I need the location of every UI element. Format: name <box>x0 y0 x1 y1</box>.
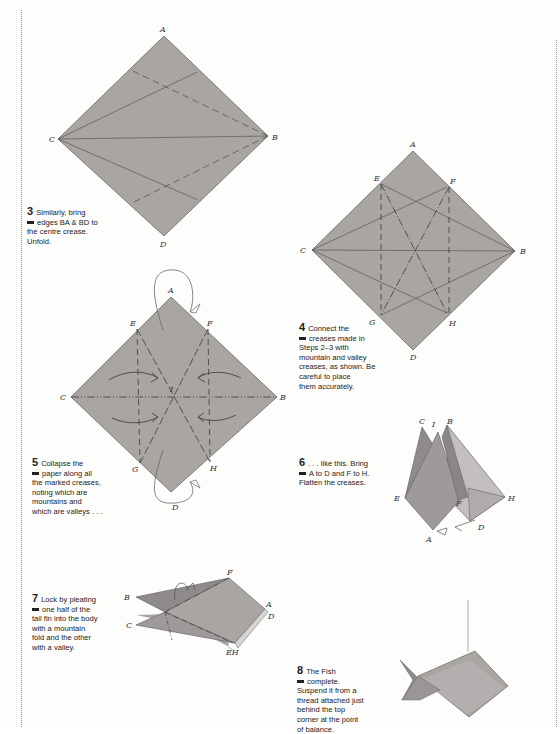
caption-line: careful to place <box>299 372 409 382</box>
step-3-caption: 3Similarly, bring edges BA & BD to the c… <box>27 206 127 246</box>
caption-line: The Fish <box>306 667 336 676</box>
caption-line: thread attached just <box>297 696 397 706</box>
caption-line: . . . like this. Bring <box>308 459 368 468</box>
step-marker-bar <box>32 608 39 611</box>
step-marker-bar <box>32 472 39 475</box>
caption-line: mountain and valley <box>299 353 409 363</box>
caption-line: mountains and <box>32 497 132 507</box>
caption-line: Collapse the <box>41 459 83 468</box>
caption-line: the marked creases, <box>32 478 132 488</box>
caption-line: Lock by pleating <box>41 595 96 604</box>
caption-line: Suspend it from a <box>297 686 397 696</box>
step-number: 7 <box>32 592 38 604</box>
step-marker-bar <box>299 472 306 475</box>
caption-line: Steps 2–3 with <box>299 343 409 353</box>
step-number: 4 <box>299 321 305 333</box>
step-marker-bar <box>27 221 34 224</box>
step-marker-bar <box>299 337 306 340</box>
caption-line: Flatten the creases. <box>299 478 399 488</box>
step-8-caption: 8The Fish complete. Suspend it from a th… <box>297 665 397 734</box>
caption-line: complete. <box>307 677 340 686</box>
caption-line: edges BA & BD to <box>37 218 98 227</box>
caption-line: Connect the <box>308 324 349 333</box>
caption-line: them accurately. <box>299 382 409 392</box>
step-6-caption: 6. . . like this. Bring A to D and F to … <box>299 457 399 488</box>
step-7-caption: 7Lock by pleating one half of the tail f… <box>32 593 132 653</box>
caption-line: with a valley. <box>32 643 132 653</box>
caption-line: creases made in <box>309 334 365 343</box>
step-number: 6 <box>299 456 305 468</box>
caption-line: corner at the point <box>297 715 397 725</box>
caption-line: of balance. <box>297 725 397 734</box>
caption-line: Unfold. <box>27 237 127 247</box>
caption-line: tail fin into the body <box>32 614 132 624</box>
caption-line: Similarly, bring <box>36 208 85 217</box>
caption-line: fold and the other <box>32 633 132 643</box>
caption-line: which are valleys . . . <box>32 507 132 517</box>
caption-line: creases, as shown. Be <box>299 362 409 372</box>
step-number: 8 <box>297 664 303 676</box>
step-number: 3 <box>27 205 33 217</box>
step-5-caption: 5Collapse the paper along all the marked… <box>32 457 132 517</box>
step-4-caption: 4Connect the creases made in Steps 2–3 w… <box>299 322 409 391</box>
caption-line: the centre crease. <box>27 227 127 237</box>
caption-line: behind the top <box>297 705 397 715</box>
caption-line: noting which are <box>32 488 132 498</box>
caption-line: paper along all <box>42 469 92 478</box>
caption-line: one half of the <box>42 605 90 614</box>
caption-line: with a mountain <box>32 624 132 634</box>
caption-line: A to D and F to H. <box>309 469 369 478</box>
step-number: 5 <box>32 456 38 468</box>
step-marker-bar <box>297 680 304 683</box>
